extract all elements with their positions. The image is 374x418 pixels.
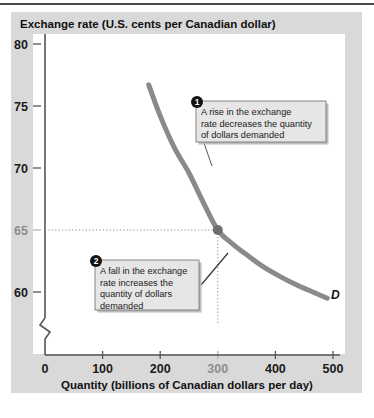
y-tick-label: 80 <box>14 38 28 52</box>
callout-number: 2 <box>94 256 99 266</box>
x-tick-label: 400 <box>265 362 286 376</box>
callout-line: rate decreases the quantity <box>201 119 312 129</box>
callout-2: A fall in the exchangerate increases the… <box>90 255 202 313</box>
y-tick-label: 65 <box>14 224 28 238</box>
y-tick-label: 70 <box>14 162 28 176</box>
callout-1: A rise in the exchangerate decreases the… <box>191 96 329 145</box>
callout-line: rate increases the <box>100 278 173 288</box>
y-axis-ticks: 6065707580 <box>14 38 41 300</box>
x-axis-title: Quantity (billions of Canadian dollars p… <box>61 379 313 391</box>
y-axis-line <box>40 34 50 355</box>
callout-line: A rise in the exchange <box>201 107 291 117</box>
x-tick-label: 200 <box>150 362 171 376</box>
callout-line: quantity of dollars <box>100 289 172 299</box>
callout-boxes: A rise in the exchangerate decreases the… <box>90 96 329 313</box>
y-tick-label: 60 <box>14 286 28 300</box>
chart-title: Exchange rate (U.S. cents per Canadian d… <box>20 18 276 30</box>
x-tick-label: 0 <box>42 362 49 376</box>
curve-label-d: D <box>331 288 340 302</box>
data-points <box>213 225 223 235</box>
demand-curve-chart: Exchange rate (U.S. cents per Canadian d… <box>0 0 374 418</box>
callout-line: of dollars demanded <box>201 130 284 140</box>
x-tick-label: 100 <box>92 362 113 376</box>
y-tick-label: 75 <box>14 100 28 114</box>
x-tick-label: 300 <box>207 362 228 376</box>
equilibrium-point <box>213 225 223 235</box>
figure-container: Exchange rate (U.S. cents per Canadian d… <box>0 0 374 418</box>
callout-line: demanded <box>100 301 143 311</box>
callout-line: A fall in the exchange <box>100 266 187 276</box>
x-tick-label: 500 <box>323 362 344 376</box>
callout-number: 1 <box>195 97 200 107</box>
